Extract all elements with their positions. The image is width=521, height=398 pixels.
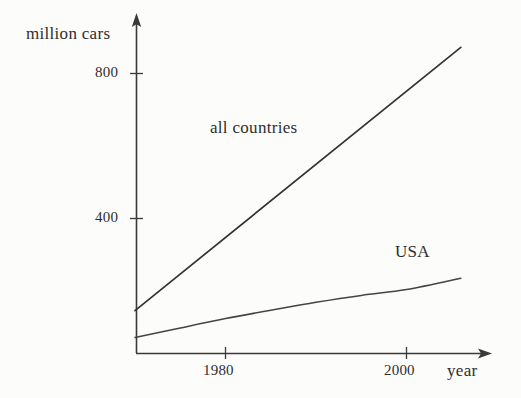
x-tick-label-1980: 1980 [203,363,234,378]
x-tick-label-2000: 2000 [384,363,415,378]
series-line-usa [135,278,461,337]
y-axis-title: million cars [26,25,110,42]
chart-plot-area [0,0,521,398]
chart-figure: million cars 800 400 1980 2000 year all … [0,0,521,398]
y-axis [132,13,141,353]
y-tick-label-800: 800 [95,65,118,80]
series-label-usa: USA [395,243,430,260]
y-tick-label-400: 400 [95,210,118,225]
x-axis [136,349,492,359]
x-axis-title: year [447,362,477,379]
series-label-all-countries: all countries [210,119,297,136]
series-line-all-countries [135,47,461,310]
